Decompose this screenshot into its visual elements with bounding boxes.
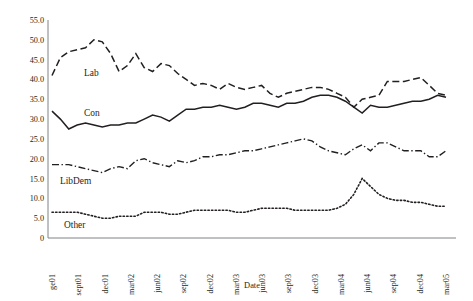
series-label-lab: Lab: [84, 68, 99, 78]
y-tick-label: 40.0: [30, 75, 44, 84]
x-tick-label: sep02: [179, 274, 188, 293]
y-axis-tick-labels: 05.010.015.020.025.030.035.040.045.050.0…: [30, 16, 44, 243]
x-tick-label: jun02: [153, 274, 162, 294]
y-tick-label: 15.0: [30, 175, 44, 184]
y-tick-label: 30.0: [30, 115, 44, 124]
series-line-other: [52, 179, 446, 219]
y-tick-label: 55.0: [30, 16, 44, 25]
x-tick-label: sep03: [284, 274, 293, 293]
series-line-lab: [52, 40, 446, 107]
y-tick-label: 20.0: [30, 155, 44, 164]
y-tick-label: 25.0: [30, 135, 44, 144]
y-tick-label: 5.0: [34, 214, 44, 223]
x-tick-label: dec03: [311, 274, 320, 294]
x-tick-label: dec01: [101, 274, 110, 294]
x-tick-label: mar02: [127, 274, 136, 295]
y-tick-label: 50.0: [30, 36, 44, 45]
y-tick-label: 0: [40, 234, 44, 243]
x-tick-label: jun04: [363, 274, 372, 294]
y-tick-label: 45.0: [30, 56, 44, 65]
series-label-other: Other: [64, 220, 86, 230]
line-chart: 05.010.015.020.025.030.035.040.045.050.0…: [0, 0, 473, 301]
x-tick-label: sep04: [389, 274, 398, 293]
y-tick-label: 35.0: [30, 95, 44, 104]
x-tick-label: sept01: [74, 274, 83, 295]
chart-container: 05.010.015.020.025.030.035.040.045.050.0…: [0, 0, 473, 301]
x-tick-label: mar04: [337, 274, 346, 295]
x-tick-label: mar03: [232, 274, 241, 295]
series-annotations: LabConLibDemOther: [60, 68, 100, 230]
x-tick-label: dec04: [416, 274, 425, 294]
x-tick-label: mar05: [442, 274, 451, 295]
series-label-con: Con: [84, 108, 100, 118]
series-label-libdem: LibDem: [60, 176, 92, 186]
y-tick-label: 10.0: [30, 194, 44, 203]
series-lines: [52, 40, 446, 218]
x-tick-label: ge01: [48, 274, 57, 290]
x-axis-title: Date: [244, 281, 260, 290]
series-line-libdem: [52, 139, 446, 173]
series-line-con: [52, 95, 446, 129]
x-tick-label: dec02: [206, 274, 215, 294]
